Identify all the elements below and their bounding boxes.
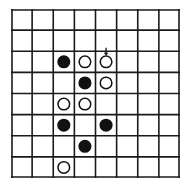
board-cell[interactable] bbox=[74, 157, 95, 178]
board-cell[interactable] bbox=[53, 30, 74, 51]
board-cell[interactable] bbox=[74, 9, 95, 30]
white-stone bbox=[79, 98, 91, 110]
board-cell[interactable] bbox=[117, 94, 138, 115]
board-cell[interactable] bbox=[32, 30, 53, 51]
white-stone bbox=[58, 162, 70, 174]
black-stone bbox=[58, 56, 70, 68]
board-cell[interactable] bbox=[11, 136, 32, 157]
board-cell[interactable] bbox=[53, 72, 74, 93]
board-cell[interactable] bbox=[138, 115, 159, 136]
board-cell[interactable] bbox=[32, 157, 53, 178]
black-stone bbox=[58, 119, 70, 131]
board-cell[interactable] bbox=[138, 9, 159, 30]
board-cell[interactable] bbox=[117, 30, 138, 51]
board-cell[interactable] bbox=[117, 115, 138, 136]
board-cell[interactable] bbox=[117, 9, 138, 30]
board-cell[interactable] bbox=[11, 157, 32, 178]
board-cell[interactable] bbox=[96, 94, 117, 115]
board-cell[interactable] bbox=[159, 72, 180, 93]
board-cell[interactable] bbox=[96, 9, 117, 30]
white-stone bbox=[79, 56, 91, 68]
board-cell[interactable] bbox=[53, 136, 74, 157]
board-cell[interactable] bbox=[11, 115, 32, 136]
board-cell[interactable] bbox=[138, 136, 159, 157]
board-cell[interactable] bbox=[159, 157, 180, 178]
white-stone bbox=[58, 98, 70, 110]
board-cell[interactable] bbox=[11, 9, 32, 30]
board-cell[interactable] bbox=[96, 136, 117, 157]
white-stone bbox=[100, 77, 112, 89]
board-cell[interactable] bbox=[32, 51, 53, 72]
board-cell[interactable] bbox=[117, 136, 138, 157]
white-stone bbox=[100, 56, 112, 68]
board-cell[interactable] bbox=[159, 136, 180, 157]
board-cell[interactable] bbox=[159, 9, 180, 30]
board-cell[interactable] bbox=[138, 94, 159, 115]
board-cell[interactable] bbox=[11, 72, 32, 93]
board-cell[interactable] bbox=[74, 115, 95, 136]
black-stone bbox=[79, 141, 91, 153]
board-cell[interactable] bbox=[117, 72, 138, 93]
board-cell[interactable] bbox=[159, 115, 180, 136]
black-stone bbox=[79, 77, 91, 89]
board-cell[interactable] bbox=[53, 9, 74, 30]
board-cell[interactable] bbox=[32, 94, 53, 115]
black-stone bbox=[100, 119, 112, 131]
board-cell[interactable] bbox=[117, 51, 138, 72]
board-cell[interactable] bbox=[11, 94, 32, 115]
board-cell[interactable] bbox=[74, 30, 95, 51]
board-cell[interactable] bbox=[138, 30, 159, 51]
board-cell[interactable] bbox=[11, 51, 32, 72]
board-cell[interactable] bbox=[32, 9, 53, 30]
game-board[interactable] bbox=[11, 9, 180, 178]
board-cell[interactable] bbox=[32, 72, 53, 93]
board-cell[interactable] bbox=[159, 51, 180, 72]
board-cell[interactable] bbox=[11, 30, 32, 51]
board-cell[interactable] bbox=[32, 136, 53, 157]
board-cell[interactable] bbox=[117, 157, 138, 178]
board-cell[interactable] bbox=[159, 30, 180, 51]
board-grid bbox=[11, 9, 180, 178]
board-cell[interactable] bbox=[138, 157, 159, 178]
board-cell[interactable] bbox=[96, 157, 117, 178]
board-cell[interactable] bbox=[138, 72, 159, 93]
board-cell[interactable] bbox=[159, 94, 180, 115]
board-cell[interactable] bbox=[32, 115, 53, 136]
board-cell[interactable] bbox=[138, 51, 159, 72]
